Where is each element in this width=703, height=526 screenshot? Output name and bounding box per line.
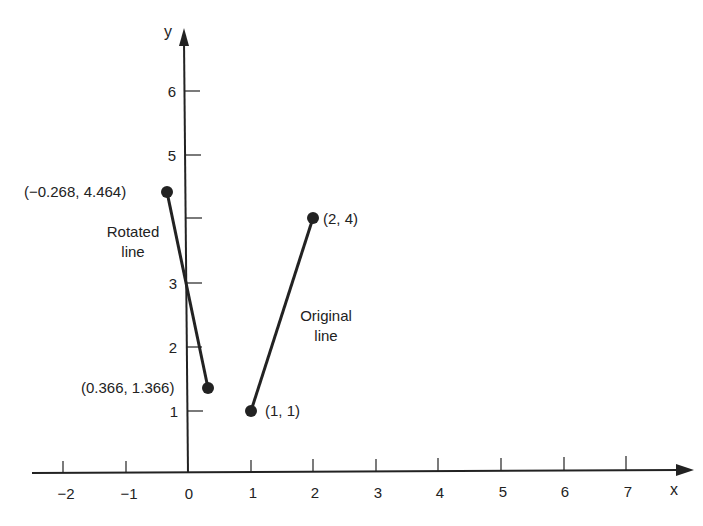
original-point-2-4: [307, 212, 319, 224]
rotated-point-label-2: (−0.268, 4.464): [24, 184, 126, 199]
rotated-point-label-1: (0.366, 1.366): [81, 380, 174, 395]
original-point-1-1: [245, 405, 257, 417]
x-tick-label: 4: [436, 485, 444, 500]
x-tick-label: 3: [374, 485, 382, 500]
x-tick-label: 0: [185, 486, 193, 501]
rotated-line-caption-1: Rotated: [100, 222, 166, 242]
y-tick-label: 3: [169, 276, 177, 291]
rotated-line-caption: Rotated line: [100, 222, 166, 261]
original-point-label-1-1: (1, 1): [265, 403, 300, 418]
y-tick-label: 1: [170, 404, 178, 419]
original-line-caption-1: Original: [293, 306, 359, 326]
y-tick-label: 6: [168, 84, 176, 99]
original-line-caption-2: line: [293, 326, 359, 346]
y-tick-label: 2: [169, 340, 177, 355]
x-axis-arrow-icon: [676, 464, 694, 476]
x-axis-label: x: [670, 482, 678, 498]
x-axis: [32, 470, 680, 473]
x-tick-label: 5: [499, 484, 507, 499]
original-point-label-2-4: (2, 4): [323, 211, 358, 226]
x-tick-label: 7: [624, 484, 632, 499]
original-line-caption: Original line: [293, 306, 359, 345]
y-axis-label: y: [164, 24, 172, 40]
rotation-diagram: y x −2 −1 0 1 2 3 4 5 6 7 1 2 3 5 6 (1, …: [0, 0, 703, 526]
x-tick-label: −2: [57, 486, 74, 501]
x-tick-label: −1: [120, 486, 137, 501]
x-tick-label: 6: [561, 484, 569, 499]
y-axis-arrow-icon: [179, 28, 189, 46]
x-tick-label: 1: [249, 485, 257, 500]
x-tick-label: 2: [311, 485, 319, 500]
rotated-point-neg0268-4464: [161, 186, 173, 198]
rotated-point-0366-1366: [202, 382, 214, 394]
y-tick-label: 5: [168, 148, 176, 163]
y-axis: [184, 40, 188, 473]
rotated-line-caption-2: line: [100, 242, 166, 262]
plot-canvas: [0, 0, 703, 526]
